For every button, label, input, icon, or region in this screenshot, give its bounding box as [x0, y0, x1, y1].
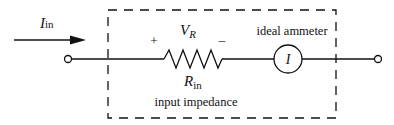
left-terminal	[65, 56, 72, 63]
resistance-label: Rin	[183, 73, 202, 91]
input-impedance-caption: input impedance	[155, 95, 238, 109]
plus-sign: +	[150, 33, 157, 48]
ammeter: I	[274, 45, 302, 73]
right-terminal	[375, 56, 382, 63]
ammeter-label: ideal ammeter	[256, 24, 328, 38]
resistor-zigzag	[164, 50, 222, 68]
minus-sign: –	[218, 32, 226, 47]
voltage-label: VR	[180, 22, 196, 40]
input-current-label: Iin	[39, 15, 54, 31]
input-current-arrow	[14, 36, 86, 45]
circuit-diagram: Iin I + VR – Rin ideal ammeter input imp…	[0, 0, 394, 125]
